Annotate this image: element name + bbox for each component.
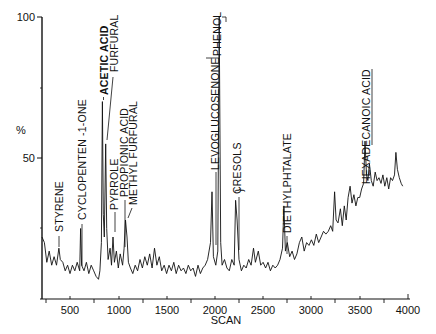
x-tick-label-1500: 1500: [155, 304, 179, 316]
label-phenol: PHENOL: [211, 12, 223, 56]
label-furfural: FURFURAL: [108, 14, 120, 72]
label-methyl-furfural: METHYL FURFURAL: [127, 101, 139, 205]
x-tick-label-3500: 3500: [348, 304, 372, 316]
label-diethylphtalate: DIETHYLPHTALATE: [281, 133, 293, 233]
label-hexadecanoic-acid: HEXADECANOIC ACID: [360, 69, 372, 184]
label-styrene: STYRENE: [53, 181, 65, 232]
x-tick-label-3000: 3000: [299, 304, 323, 316]
methyl-furfural-leader: [128, 208, 132, 218]
chromatogram-chart: 100 50 % 500 1000 1500 2000 2500 3000 35…: [0, 0, 436, 334]
label-cresols: CRESOLS: [231, 142, 243, 194]
x-tick-label-500: 500: [61, 304, 79, 316]
x-tick-label-1000: 1000: [107, 304, 131, 316]
y-tick-label-50: 50: [23, 152, 35, 164]
label-levoglucosenone: LEVOGLUCOSENONE: [209, 57, 221, 170]
cresols-brace-icon: }: [233, 188, 245, 192]
x-tick-label-4000: 4000: [396, 304, 420, 316]
y-axis-label: %: [16, 124, 26, 136]
x-tick-label-2500: 2500: [251, 304, 275, 316]
label-cyclopentenone: CYCLOPENTEN -1-ONE: [76, 99, 88, 220]
x-axis-label: SCAN: [211, 314, 242, 326]
y-tick-label-100: 100: [17, 11, 35, 23]
